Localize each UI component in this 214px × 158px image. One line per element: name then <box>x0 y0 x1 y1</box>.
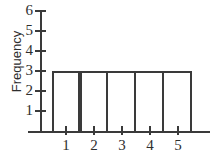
y-tick-label-6: 6 <box>15 3 33 18</box>
y-tick-6 <box>35 10 46 12</box>
y-tick-4 <box>35 50 46 52</box>
histogram-chart: Frequency 123456 12345 <box>0 0 214 158</box>
bar-4 <box>134 71 164 131</box>
x-axis-line <box>28 131 210 133</box>
y-tick-label-1: 1 <box>15 103 33 118</box>
x-tick-label-5: 5 <box>168 138 188 153</box>
y-tick-label-3: 3 <box>15 63 33 78</box>
bar-5 <box>162 71 192 131</box>
y-tick-label-4: 4 <box>15 43 33 58</box>
y-tick-label-2: 2 <box>15 83 33 98</box>
y-tick-label-5: 5 <box>15 23 33 38</box>
x-tick-label-1: 1 <box>56 138 76 153</box>
y-tick-3 <box>35 70 46 72</box>
x-tick-label-2: 2 <box>84 138 104 153</box>
y-tick-1 <box>35 110 46 112</box>
x-tick-label-3: 3 <box>112 138 132 153</box>
bar-2 <box>78 71 108 131</box>
y-tick-5 <box>35 30 46 32</box>
bar-3 <box>106 71 136 131</box>
y-tick-2 <box>35 90 46 92</box>
x-tick-label-4: 4 <box>140 138 160 153</box>
